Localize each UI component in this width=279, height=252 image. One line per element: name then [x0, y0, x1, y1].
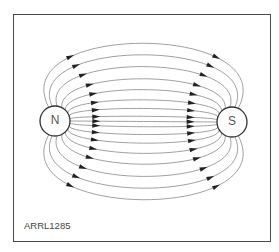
- field-line: [68, 129, 219, 143]
- arrow-icon: [187, 131, 195, 136]
- field-line: [69, 108, 218, 117]
- arrow-icon: [89, 91, 98, 97]
- arrow-icon: [92, 114, 100, 119]
- arrow-icon: [188, 100, 197, 106]
- arrow-icon: [187, 115, 195, 120]
- arrow-icon: [66, 53, 75, 60]
- field-line: [65, 132, 221, 153]
- arrow-icon: [92, 107, 100, 112]
- arrow-icon: [189, 91, 198, 97]
- arrow-icon: [187, 108, 195, 113]
- arrow-icon: [66, 182, 75, 189]
- arrow-icon: [79, 71, 88, 78]
- field-line: [68, 100, 219, 114]
- arrow-icon: [85, 82, 94, 88]
- field-line: [44, 43, 243, 108]
- field-line: [70, 121, 217, 122]
- arrow-icon: [188, 138, 197, 143]
- field-line: [44, 135, 243, 200]
- arrow-icon: [92, 123, 100, 128]
- arrow-icon: [199, 72, 208, 79]
- arrow-icon: [212, 183, 221, 190]
- arrow-icon: [193, 82, 202, 88]
- arrow-icon: [92, 130, 100, 135]
- arrow-icon: [91, 137, 100, 142]
- arrow-icon: [79, 164, 88, 171]
- north-pole-label: N: [40, 113, 70, 127]
- arrow-icon: [187, 124, 195, 129]
- arrow-icon: [72, 173, 81, 180]
- arrow-icon: [89, 146, 98, 152]
- south-pole-label: S: [217, 114, 247, 128]
- field-line: [70, 123, 217, 127]
- arrow-icon: [206, 63, 215, 70]
- arrow-icon: [193, 155, 202, 161]
- arrow-icon: [92, 119, 100, 123]
- figure-caption: ARRL1285: [24, 220, 70, 231]
- arrow-icon: [206, 174, 215, 181]
- arrow-icon: [199, 165, 208, 172]
- field-line: [70, 116, 217, 120]
- arrow-icon: [85, 155, 94, 161]
- arrow-icon: [212, 54, 221, 62]
- arrow-icon: [72, 62, 81, 69]
- field-line: [65, 90, 221, 111]
- arrow-icon: [189, 146, 198, 152]
- field-line: [69, 126, 218, 135]
- arrow-icon: [187, 120, 195, 124]
